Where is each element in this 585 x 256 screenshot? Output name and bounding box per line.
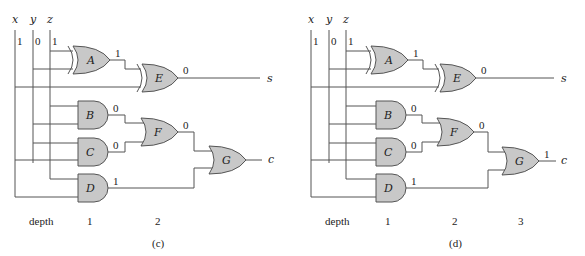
gate-d-output: 1 <box>411 175 417 187</box>
panel-caption: (d) <box>449 237 462 250</box>
input-y-label: y <box>325 13 333 26</box>
gate-c-label: C <box>384 146 393 159</box>
input-z-value: 1 <box>52 35 58 47</box>
panel-d: x y z 1 0 1 A 1 E 0 s B 0 <box>308 13 567 250</box>
input-z-label: z <box>46 13 53 26</box>
gate-e-label: E <box>452 72 461 85</box>
gate-b-output: 0 <box>113 102 119 114</box>
depth-1: 1 <box>87 215 93 227</box>
gate-f-label: F <box>449 126 458 139</box>
gate-d-label: D <box>85 182 95 195</box>
panel-caption: (c) <box>152 237 165 250</box>
gate-f-output: 0 <box>479 119 485 131</box>
gate-c-label: C <box>86 146 95 159</box>
input-x-value: 1 <box>17 35 23 47</box>
depth-label: depth <box>325 215 350 227</box>
gate-a-output: 1 <box>413 47 419 59</box>
gate-d-label: D <box>383 182 393 195</box>
panel-c: x y z 1 0 1 A 1 E 0 <box>12 13 274 250</box>
input-z-value: 1 <box>348 35 354 47</box>
gate-e-output: 0 <box>183 64 189 76</box>
gate-e-output: 0 <box>481 64 487 76</box>
output-c-label: c <box>561 154 567 167</box>
depth-3: 3 <box>518 215 524 227</box>
gate-e-label: E <box>154 72 163 85</box>
circuit-diagrams: x y z 1 0 1 A 1 E 0 <box>0 0 585 256</box>
gate-f-output: 0 <box>183 119 189 131</box>
gate-g-label: G <box>222 154 231 167</box>
gate-b-output: 0 <box>411 102 417 114</box>
depth-2: 2 <box>452 215 458 227</box>
output-c-label: c <box>268 153 274 166</box>
input-y-value: 0 <box>35 35 41 47</box>
output-s-label: s <box>267 72 273 85</box>
gate-f-label: F <box>153 126 162 139</box>
gate-d-output: 1 <box>113 175 119 187</box>
gate-g-label: G <box>515 155 524 168</box>
input-y-label: y <box>29 13 37 26</box>
gate-g-output: 1 <box>544 148 550 160</box>
input-x-label: x <box>12 13 19 26</box>
input-x-label: x <box>308 13 315 26</box>
gate-b-label: B <box>383 109 392 122</box>
input-x-value: 1 <box>313 35 319 47</box>
depth-label: depth <box>29 215 54 227</box>
output-s-label: s <box>561 72 567 85</box>
gate-c-output: 0 <box>411 139 417 151</box>
gate-a-label: A <box>86 54 95 67</box>
gate-a-output: 1 <box>115 47 121 59</box>
gate-b-label: B <box>85 109 94 122</box>
depth-1: 1 <box>385 215 391 227</box>
input-z-label: z <box>342 13 349 26</box>
input-y-value: 0 <box>331 35 337 47</box>
depth-2: 2 <box>155 215 161 227</box>
gate-c-output: 0 <box>113 139 119 151</box>
gate-a-label: A <box>384 54 393 67</box>
